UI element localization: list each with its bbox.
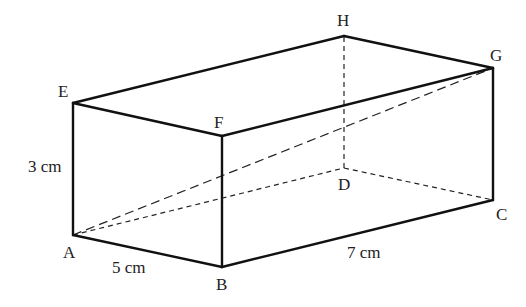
cuboid-diagram: A B C D E F G H 3 cm 5 cm 7 cm [0,0,526,307]
hidden-edges [73,36,493,235]
vertex-label-d: D [338,175,350,194]
dimension-width-label: 5 cm [112,258,146,277]
edge-gh [344,36,493,68]
hidden-edge-ad [73,168,344,235]
vertex-label-c: C [496,205,507,224]
vertex-label-g: G [490,46,502,65]
vertex-label-h: H [337,11,349,30]
diagonal-ag [73,68,493,235]
edge-he [73,36,344,103]
space-diagonal [73,68,493,235]
vertex-label-f: F [214,113,223,132]
vertex-label-a: A [63,243,76,262]
dimension-length-label: 7 cm [347,243,381,262]
edge-ef [73,103,222,136]
edge-fg [222,68,493,136]
vertex-label-b: B [216,275,227,294]
vertex-label-e: E [58,82,68,101]
edge-ab [73,235,222,267]
hidden-edge-dc [344,168,493,200]
dimension-height-label: 3 cm [28,157,62,176]
